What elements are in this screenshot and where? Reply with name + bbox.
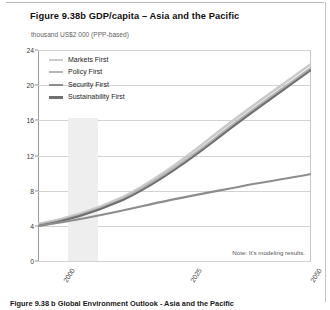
y-tick-16	[35, 120, 38, 121]
page-right-rule	[325, 2, 326, 302]
legend-item-policy-first[interactable]: Policy First	[49, 68, 125, 76]
y-axis-label-20: 20	[26, 82, 34, 89]
x-axis-label-2025: 2025	[189, 267, 203, 284]
y-tick-24	[35, 50, 38, 51]
legend-swatch-icon	[49, 59, 63, 61]
chart-legend: Markets First Policy First Security Firs…	[49, 56, 125, 101]
legend-swatch-icon	[49, 96, 63, 99]
y-axis-label-16: 16	[26, 117, 34, 124]
y-tick-4	[35, 226, 38, 227]
y-tick-12	[35, 156, 38, 157]
series-line-security-first	[38, 174, 311, 226]
figure-caption: Figure 9.38 b Global Environment Outlook…	[10, 299, 326, 308]
y-tick-20	[35, 85, 38, 86]
legend-label: Policy First	[68, 68, 102, 76]
x-axis-label-2050: 2050	[309, 267, 323, 284]
figure-page: Figure 9.38b GDP/capita – Asia and the P…	[0, 0, 330, 310]
y-axis-label-12: 12	[26, 153, 34, 160]
legend-label: Markets First	[68, 56, 108, 64]
axis-unit-subtitle: thousand US$2 000 (PPP-based)	[31, 31, 129, 38]
legend-label: Security First	[68, 81, 109, 89]
legend-item-sustainability-first[interactable]: Sustainability First	[49, 93, 125, 101]
legend-label: Sustainability First	[68, 93, 125, 101]
x-axis-label-2000: 2000	[62, 267, 76, 284]
page-top-rule	[6, 2, 324, 3]
chart-note: Note: It's modeling results.	[232, 249, 305, 256]
y-tick-8	[35, 191, 38, 192]
y-axis-label-8: 8	[30, 188, 34, 195]
y-axis-label-0: 0	[30, 258, 34, 265]
chart-plot-area: Markets First Policy First Security Firs…	[38, 50, 311, 262]
legend-item-markets-first[interactable]: Markets First	[49, 56, 125, 64]
figure-title: Figure 9.38b GDP/capita – Asia and the P…	[30, 11, 239, 21]
legend-item-security-first[interactable]: Security First	[49, 81, 125, 89]
legend-swatch-icon	[49, 84, 63, 86]
legend-swatch-icon	[49, 71, 63, 73]
y-axis-label-24: 24	[26, 47, 34, 54]
y-axis-label-4: 4	[30, 223, 34, 230]
y-tick-0	[35, 261, 38, 262]
